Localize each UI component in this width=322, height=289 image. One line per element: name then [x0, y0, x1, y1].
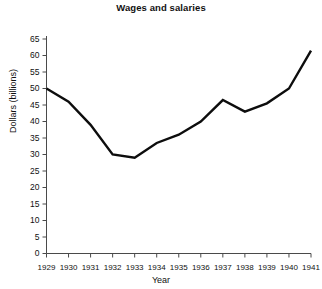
x-tick-label: 1935 [170, 263, 188, 272]
x-tick-label: 1934 [148, 263, 166, 272]
x-axis: 1929193019311932193319341935193619371938… [38, 254, 321, 272]
x-tick-label: 1941 [302, 263, 320, 272]
y-tick-label: 15 [30, 199, 40, 209]
y-tick-label: 40 [30, 116, 40, 126]
x-tick-label: 1932 [104, 263, 122, 272]
chart-figure: Wages and salaries 051015202530354045505… [0, 0, 322, 289]
x-axis-ticks: 1929193019311932193319341935193619371938… [38, 254, 321, 272]
y-tick-label: 60 [30, 50, 40, 60]
x-tick-label: 1933 [126, 263, 144, 272]
y-tick-label: 45 [30, 100, 40, 110]
y-tick-label: 30 [30, 149, 40, 159]
y-tick-label: 35 [30, 133, 40, 143]
x-tick-label: 1929 [38, 263, 56, 272]
x-tick-label: 1939 [258, 263, 276, 272]
line-chart-plot: 05101520253035404550556065 1929193019311… [0, 0, 322, 289]
x-tick-label: 1936 [192, 263, 210, 272]
x-tick-label: 1930 [60, 263, 78, 272]
y-axis-ticks: 05101520253035404550556065 [30, 34, 46, 259]
y-tick-label: 25 [30, 166, 40, 176]
y-tick-label: 5 [35, 232, 40, 242]
y-tick-label: 65 [30, 34, 40, 44]
y-tick-label: 50 [30, 83, 40, 93]
y-tick-label: 0 [35, 248, 40, 258]
y-axis-title: Dollars (billions) [8, 36, 18, 166]
x-tick-label: 1937 [214, 263, 232, 272]
data-series-line [47, 51, 312, 158]
x-axis-title: Year [0, 275, 322, 285]
x-tick-label: 1940 [280, 263, 298, 272]
x-tick-label: 1938 [236, 263, 254, 272]
y-axis: 05101520253035404550556065 [30, 34, 46, 259]
y-tick-label: 20 [30, 182, 40, 192]
y-tick-label: 55 [30, 67, 40, 77]
x-tick-label: 1931 [82, 263, 100, 272]
y-tick-label: 10 [30, 215, 40, 225]
